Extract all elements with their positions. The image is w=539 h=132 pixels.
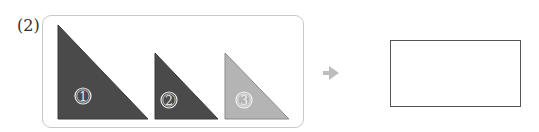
piece-number-1: 1 [79, 90, 87, 104]
triangle-piece-3: 3 [225, 53, 289, 119]
piece-number-2: 2 [165, 94, 173, 108]
arrow-right-icon [323, 66, 339, 80]
triangle-piece-1: 1 [58, 25, 148, 119]
triangle-piece-2: 2 [155, 53, 218, 119]
answer-box[interactable] [390, 40, 521, 107]
piece-number-3: 3 [240, 94, 248, 108]
